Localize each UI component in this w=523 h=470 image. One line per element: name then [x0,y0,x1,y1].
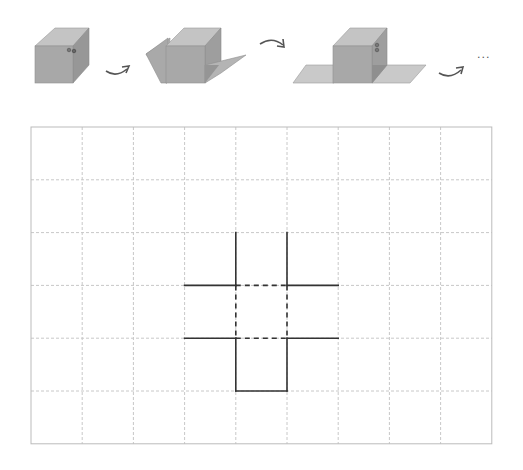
marker-dot-icon [67,48,71,52]
cube-front-face [166,46,205,83]
arrow-icon [439,67,463,76]
diagram-svg [0,0,523,470]
diagram-canvas: ... [0,0,523,470]
dotted-grid [31,127,492,444]
cube-step-2 [146,28,246,83]
marker-dot-icon [72,49,76,53]
continuation-ellipsis: ... [477,48,491,61]
cube-step-1 [35,28,89,83]
cube-step-3 [293,28,426,83]
arrow-icon [260,39,284,47]
cube-front-face [333,46,372,83]
arrow-icon [106,66,129,74]
cube-net-drawing [185,233,339,391]
marker-dot-icon [375,43,379,47]
flat-left-face [293,65,334,83]
cube-front-face [35,46,73,83]
marker-dot-icon [375,48,379,52]
left-flap-face [146,38,168,83]
